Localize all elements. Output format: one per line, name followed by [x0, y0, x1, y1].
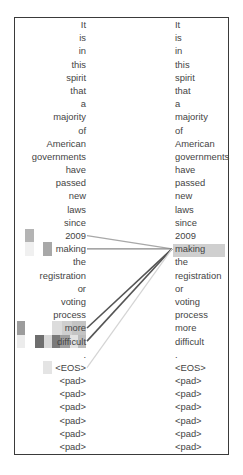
source-token: of — [20, 124, 86, 137]
source-token: have — [20, 163, 86, 176]
source-token: laws — [20, 203, 86, 216]
target-token: the — [174, 255, 228, 268]
target-token: voting — [174, 295, 228, 308]
source-token: or — [20, 282, 86, 295]
target-token: more — [174, 321, 228, 334]
source-token-column: ItisinthisspiritthatamajorityofAmericang… — [20, 18, 86, 453]
target-token: laws — [174, 203, 228, 216]
target-token: <pad> — [174, 414, 228, 427]
target-token: It — [174, 18, 228, 31]
source-token: since — [20, 216, 86, 229]
target-token: <pad> — [174, 440, 228, 453]
target-token: difficult — [174, 335, 228, 348]
source-token: the — [20, 255, 86, 268]
source-token: 2009 — [20, 229, 86, 242]
source-token: is — [20, 31, 86, 44]
source-token: a — [20, 97, 86, 110]
source-token: this — [20, 58, 86, 71]
source-token: voting — [20, 295, 86, 308]
target-token: <EOS> — [174, 361, 228, 374]
source-token: registration — [20, 269, 86, 282]
source-token: <pad> — [20, 374, 86, 387]
source-token: American — [20, 137, 86, 150]
source-token: more — [20, 321, 86, 334]
target-token: <pad> — [174, 387, 228, 400]
target-token: a — [174, 97, 228, 110]
source-token: governments — [20, 150, 86, 163]
source-token: in — [20, 44, 86, 57]
target-token: majority — [174, 110, 228, 123]
target-token: since — [174, 216, 228, 229]
target-token: process — [174, 308, 228, 321]
source-token: majority — [20, 110, 86, 123]
target-token: have — [174, 163, 228, 176]
target-token: American — [174, 137, 228, 150]
source-token: passed — [20, 176, 86, 189]
source-token: <EOS> — [20, 361, 86, 374]
source-token: difficult — [20, 335, 86, 348]
source-token: It — [20, 18, 86, 31]
target-token: <pad> — [174, 400, 228, 413]
target-token: or — [174, 282, 228, 295]
source-token: that — [20, 84, 86, 97]
target-token: governments — [174, 150, 228, 163]
source-token: <pad> — [20, 440, 86, 453]
source-token: process — [20, 308, 86, 321]
target-token: registration — [174, 269, 228, 282]
target-token-column: ItisinthisspiritthatamajorityofAmericang… — [174, 18, 228, 453]
target-token: . — [174, 348, 228, 361]
target-token: is — [174, 31, 228, 44]
target-token: this — [174, 58, 228, 71]
target-token: in — [174, 44, 228, 57]
source-token: <pad> — [20, 414, 86, 427]
target-token: <pad> — [174, 427, 228, 440]
target-token: passed — [174, 176, 228, 189]
target-token: <pad> — [174, 374, 228, 387]
source-token: spirit — [20, 71, 86, 84]
source-token: <pad> — [20, 387, 86, 400]
target-token: that — [174, 84, 228, 97]
source-token: . — [20, 348, 86, 361]
source-token: <pad> — [20, 427, 86, 440]
source-token: new — [20, 189, 86, 202]
target-token: of — [174, 124, 228, 137]
target-token: 2009 — [174, 229, 228, 242]
source-token: <pad> — [20, 400, 86, 413]
source-token: making — [20, 242, 86, 255]
target-token: making — [174, 242, 228, 255]
target-token: spirit — [174, 71, 228, 84]
target-token: new — [174, 189, 228, 202]
